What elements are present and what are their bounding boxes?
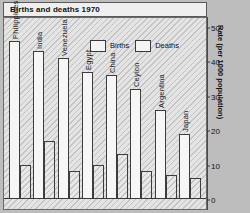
y-tick-mark-50 bbox=[207, 28, 210, 29]
bar-deaths-ceylon bbox=[141, 171, 152, 199]
bar-births-venezuela bbox=[58, 58, 69, 199]
y-tick-mark-10 bbox=[207, 165, 210, 166]
bar-births-india bbox=[33, 51, 44, 199]
bar-deaths-japan bbox=[190, 178, 201, 199]
y-tick-label-50: 50 bbox=[211, 24, 220, 33]
y-axis-line bbox=[207, 17, 208, 210]
bar-births-egypt bbox=[82, 72, 93, 199]
y-tick-mark-0 bbox=[207, 200, 210, 201]
bar-group: China bbox=[105, 27, 129, 209]
chart-window: Births and deaths 1970 Births Deaths Phi… bbox=[0, 0, 250, 213]
y-tick-label-30: 30 bbox=[211, 92, 220, 101]
bar-group: Egypt bbox=[81, 27, 105, 209]
bar-deaths-egypt bbox=[93, 165, 104, 199]
bar-deaths-philippines bbox=[20, 165, 31, 199]
bar-group: India bbox=[32, 27, 56, 209]
bar-births-philippines bbox=[9, 41, 20, 199]
category-label-venezuela: Venezuela bbox=[60, 19, 69, 56]
bar-group: Argentina bbox=[154, 27, 178, 209]
bar-deaths-venezuela bbox=[69, 171, 80, 199]
bar-births-japan bbox=[179, 134, 190, 199]
category-label-japan: Japan bbox=[181, 110, 190, 131]
category-label-philippines: Philippines bbox=[11, 0, 20, 38]
y-tick-label-20: 20 bbox=[211, 127, 220, 136]
bar-group: Ceylon bbox=[129, 27, 153, 209]
category-label-ceylon: Ceylon bbox=[132, 62, 141, 87]
bar-births-ceylon bbox=[130, 89, 141, 199]
bar-deaths-argentina bbox=[166, 175, 177, 199]
category-label-china: China bbox=[108, 53, 117, 74]
y-tick-mark-30 bbox=[207, 96, 210, 97]
y-axis: Rate (per 1000 population) 01020304050 bbox=[207, 17, 247, 210]
title-bar: Births and deaths 1970 bbox=[3, 2, 207, 17]
bar-deaths-india bbox=[44, 141, 55, 199]
category-label-india: India bbox=[35, 32, 44, 49]
category-label-egypt: Egypt bbox=[84, 50, 93, 70]
y-tick-label-10: 10 bbox=[211, 161, 220, 170]
bar-births-argentina bbox=[155, 110, 166, 199]
bar-group: Philippines bbox=[8, 27, 32, 209]
bar-group: Japan bbox=[178, 27, 202, 209]
bar-group-container: PhilippinesIndiaVenezuelaEgyptChinaCeylo… bbox=[4, 27, 206, 209]
plot-area: Births Deaths PhilippinesIndiaVenezuelaE… bbox=[3, 17, 207, 210]
bar-group: Venezuela bbox=[57, 27, 81, 209]
y-tick-mark-20 bbox=[207, 131, 210, 132]
page-title: Births and deaths 1970 bbox=[10, 5, 100, 14]
y-tick-label-0: 0 bbox=[211, 196, 215, 205]
y-tick-label-40: 40 bbox=[211, 58, 220, 67]
category-label-argentina: Argentina bbox=[157, 74, 166, 108]
bar-births-china bbox=[106, 75, 117, 199]
x-axis-baseline bbox=[4, 198, 206, 199]
y-axis-label: Rate (per 1000 population) bbox=[216, 25, 225, 119]
bar-deaths-china bbox=[117, 154, 128, 199]
y-tick-mark-40 bbox=[207, 62, 210, 63]
